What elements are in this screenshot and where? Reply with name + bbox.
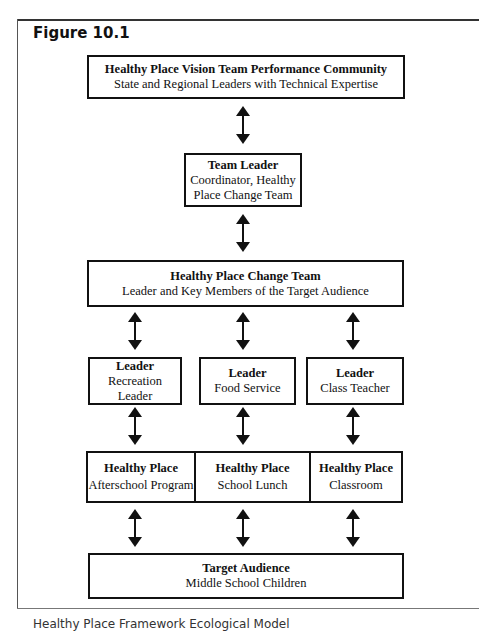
change-team-subtitle: Leader and Key Members of the Target Aud… — [122, 284, 369, 299]
double-arrow-icon — [128, 407, 142, 445]
double-arrow-icon — [236, 106, 250, 144]
place-subtitle: Classroom — [329, 477, 382, 494]
place-title: Healthy Place — [319, 460, 393, 477]
team-leader-box: Team Leader Coordinator, Healthy Place C… — [184, 153, 302, 207]
frame-bottom-border — [17, 608, 479, 609]
team-leader-title: Team Leader — [208, 158, 279, 173]
target-audience-box: Target Audience Middle School Children — [88, 553, 404, 599]
target-audience-title: Target Audience — [202, 561, 289, 576]
place-title: Healthy Place — [104, 460, 178, 477]
vision-team-subtitle: State and Regional Leaders with Technica… — [114, 77, 378, 92]
target-audience-subtitle: Middle School Children — [186, 576, 307, 591]
leader-title: Leader — [228, 366, 266, 381]
leader-subtitle: Class Teacher — [320, 381, 389, 396]
leader-box-recreation: Leader Recreation Leader — [88, 357, 182, 405]
place-afterschool: Healthy Place Afterschool Program — [88, 453, 194, 501]
team-leader-subtitle-line1: Coordinator, Healthy — [190, 173, 296, 188]
leader-title: Leader — [116, 359, 154, 374]
vision-team-title: Healthy Place Vision Team Performance Co… — [105, 62, 387, 77]
vision-team-box: Healthy Place Vision Team Performance Co… — [87, 55, 405, 99]
leader-box-food-service: Leader Food Service — [199, 357, 296, 405]
leader-subtitle: Food Service — [214, 381, 280, 396]
healthy-places-row: Healthy Place Afterschool Program Health… — [86, 451, 403, 503]
figure-title: Figure 10.1 — [33, 24, 130, 42]
double-arrow-icon — [128, 509, 142, 547]
leader-subtitle: Recreation Leader — [90, 374, 180, 404]
place-subtitle: Afterschool Program — [88, 477, 193, 494]
frame-top-border — [17, 19, 479, 21]
place-subtitle: School Lunch — [218, 477, 288, 494]
place-classroom: Healthy Place Classroom — [309, 453, 401, 501]
double-arrow-icon — [346, 509, 360, 547]
place-title: Healthy Place — [216, 460, 290, 477]
double-arrow-icon — [236, 214, 250, 252]
double-arrow-icon — [346, 312, 360, 350]
team-leader-subtitle-line2: Place Change Team — [194, 188, 293, 203]
change-team-box: Healthy Place Change Team Leader and Key… — [87, 260, 404, 307]
double-arrow-icon — [236, 509, 250, 547]
figure-caption: Healthy Place Framework Ecological Model — [33, 617, 290, 631]
double-arrow-icon — [236, 312, 250, 350]
frame-left-border — [17, 19, 18, 609]
change-team-title: Healthy Place Change Team — [170, 269, 320, 284]
leader-title: Leader — [336, 366, 374, 381]
leader-box-class-teacher: Leader Class Teacher — [306, 357, 404, 405]
double-arrow-icon — [128, 312, 142, 350]
double-arrow-icon — [346, 407, 360, 445]
double-arrow-icon — [236, 407, 250, 445]
place-school-lunch: Healthy Place School Lunch — [194, 453, 309, 501]
